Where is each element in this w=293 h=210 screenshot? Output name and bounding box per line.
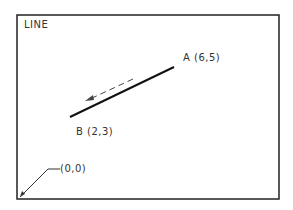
frame [17,15,279,199]
arrowhead-icon [85,95,94,101]
diagram-canvas [0,0,293,210]
line-segment-ab [70,67,174,117]
origin-leader-line [20,169,60,197]
point-a-label: A (6,5) [183,52,220,63]
point-b-label: B (2,3) [76,126,113,137]
diagram-title: LINE [24,19,48,30]
origin-arrowhead-icon [20,191,25,197]
origin-label: (0,0) [60,163,86,174]
